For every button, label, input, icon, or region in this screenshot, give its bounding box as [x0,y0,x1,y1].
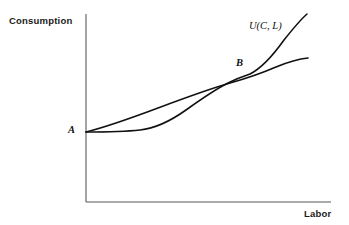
y-axis-label: Consumption [9,15,72,26]
production-function-curve [86,58,308,132]
plot-area [0,0,349,225]
point-label-b: B [236,57,243,68]
x-axis-label: Labor [304,208,331,219]
point-label-a: A [68,124,75,135]
economics-diagram: Consumption Labor A B U(C, L) [0,0,349,225]
utility-curve-label: U(C, L) [249,20,282,31]
utility-curve [86,14,307,132]
